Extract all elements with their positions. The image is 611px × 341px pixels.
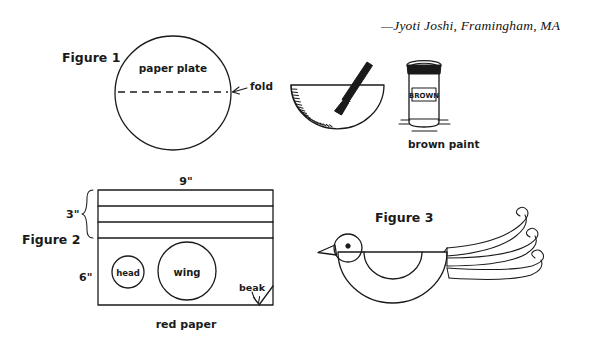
- plate-rim-hatching: [291, 85, 332, 127]
- illustration-canvas: .ln{fill:none;stroke:#1a1a1a;stroke-widt…: [0, 0, 611, 341]
- paint-jar: BROWN: [399, 61, 450, 131]
- bird-wing-arc: [364, 252, 422, 279]
- fold-arrow: [233, 87, 248, 94]
- figure-3-label: Figure 3: [375, 210, 433, 225]
- figure-1-group: Figure 1 paper plate fold: [62, 36, 273, 150]
- beak-label: beak: [239, 282, 266, 293]
- strip-height-label-3in: 3": [66, 208, 79, 221]
- tail-streamer-1: [447, 207, 528, 248]
- brown-paint-caption: brown paint: [408, 138, 479, 150]
- head-label: head: [116, 268, 140, 278]
- figure-2-label: Figure 2: [22, 232, 80, 247]
- figure-3-group: Figure 3: [318, 207, 544, 303]
- paint-jar-label: BROWN: [409, 92, 439, 100]
- paint-step-group: BROWN brown paint: [291, 61, 479, 150]
- strip-height-brace: [82, 190, 93, 238]
- bird-eye: [346, 244, 350, 248]
- bird-tail-streamers: [444, 207, 544, 279]
- paintbrush-icon: [335, 62, 373, 115]
- figure-1-label: Figure 1: [62, 50, 120, 65]
- beak-arrow: [252, 292, 260, 304]
- figure-2-group: Figure 2 9" 3" 6" head wing: [22, 175, 273, 331]
- bird-body: [338, 252, 447, 303]
- width-label-9in: 9": [179, 175, 192, 188]
- craft-instruction-page: —Jyoti Joshi, Framingham, MA .ln{fill:no…: [0, 0, 611, 341]
- tail-streamer-3: [447, 250, 544, 270]
- paper-plate-circle: [115, 36, 231, 150]
- red-paper-caption: red paper: [156, 318, 217, 331]
- attribution-credit: —Jyoti Joshi, Framingham, MA: [381, 18, 560, 34]
- paper-plate-label: paper plate: [139, 62, 207, 74]
- wing-label: wing: [174, 267, 201, 278]
- fold-label: fold: [250, 80, 273, 92]
- jar-shadow-lines: [399, 120, 450, 131]
- body-height-label-6in: 6": [79, 271, 92, 284]
- tail-streamer-2: [447, 228, 538, 258]
